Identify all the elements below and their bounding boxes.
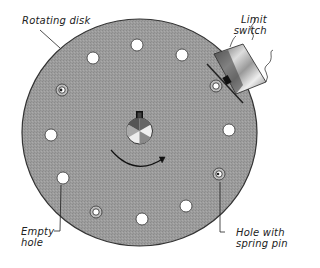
hole <box>136 213 148 225</box>
hole <box>176 49 188 61</box>
spring-pin-hole <box>213 168 225 180</box>
hole <box>180 200 192 212</box>
limit-switch-label: Limit switch <box>230 14 267 36</box>
spring-pin-hole-label-line2: spring pin <box>236 238 288 249</box>
rotating-disk-leader <box>40 30 60 48</box>
limit-switch-label-line1: Limit <box>230 14 267 25</box>
hole <box>45 129 57 141</box>
spring-pin-hole <box>210 80 222 92</box>
spring-pin-hole <box>56 84 68 96</box>
empty-hole-label: Empty hole <box>21 226 54 248</box>
rotating-disk-label: Rotating disk <box>22 15 90 26</box>
spring-pin-hole <box>90 206 102 218</box>
limit-switch-label-line2: switch <box>230 25 267 36</box>
spring-pin-hole-label: Hole with spring pin <box>236 227 288 249</box>
empty-hole-label-line2: hole <box>21 237 54 248</box>
hole <box>57 172 69 184</box>
hole <box>87 52 99 64</box>
hole <box>131 39 143 51</box>
spring-pin-hole-label-line1: Hole with <box>236 227 288 238</box>
empty-hole-label-line1: Empty <box>21 226 54 237</box>
hole <box>223 124 235 136</box>
